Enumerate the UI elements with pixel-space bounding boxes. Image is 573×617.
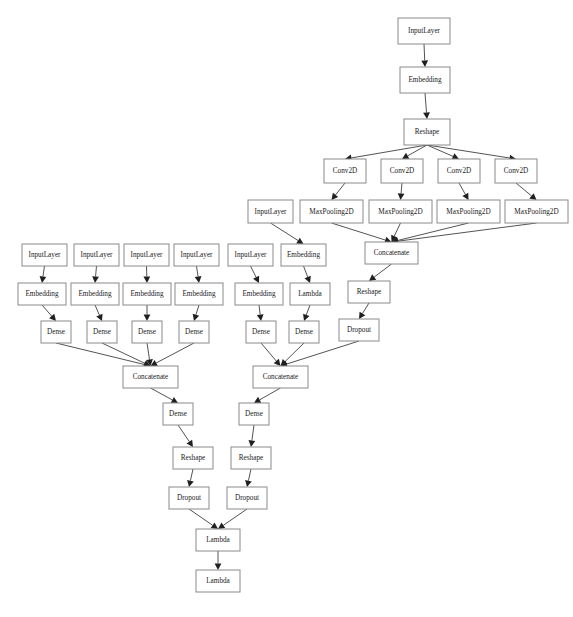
graph-node-dense[interactable]: Dense [239, 403, 269, 425]
graph-node-dense[interactable]: Dense [289, 321, 319, 343]
graph-node-dropout[interactable]: Dropout [169, 487, 209, 509]
graph-node-maxpooling2d[interactable]: MaxPooling2D [505, 200, 568, 223]
graph-edge [56, 343, 151, 368]
node-label: MaxPooling2D [378, 208, 422, 216]
node-label: Embedding [287, 251, 321, 259]
graph-node-lambda[interactable]: Lambda [196, 529, 240, 551]
node-label: Embedding [242, 290, 276, 298]
graph-node-concatenate[interactable]: Concatenate [123, 366, 178, 388]
edge-line [95, 305, 99, 315]
arrowhead-icon [92, 276, 99, 283]
edge-line [248, 469, 251, 481]
graph-edge [421, 44, 428, 67]
graph-node-conv2d[interactable]: Conv2D [324, 159, 366, 183]
graph-edge [332, 183, 346, 200]
edge-line [401, 183, 402, 194]
node-label: Lambda [206, 536, 230, 544]
graph-edge [423, 93, 430, 119]
node-label: Embedding [130, 290, 164, 298]
graph-edge [195, 266, 202, 283]
edge-line [306, 305, 310, 315]
graph-node-dense[interactable]: Dense [132, 321, 162, 343]
graph-node-embedding[interactable]: Embedding [18, 283, 66, 305]
edge-line [261, 343, 276, 361]
edge-line [336, 183, 345, 195]
arrowhead-icon [398, 193, 405, 200]
edge-line [197, 266, 199, 277]
node-label: InputLayer [29, 251, 62, 259]
graph-node-maxpooling2d[interactable]: MaxPooling2D [369, 200, 432, 223]
graph-node-dense[interactable]: Dense [87, 321, 117, 343]
node-label: Conv2D [504, 167, 528, 175]
graph-edge [189, 509, 218, 529]
graph-node-inputlayer[interactable]: InputLayer [398, 18, 450, 44]
node-label: Dropout [235, 494, 259, 502]
graph-node-embedding[interactable]: Embedding [71, 283, 119, 305]
graph-node-embedding[interactable]: Embedding [123, 283, 171, 305]
arrowhead-icon [215, 564, 222, 571]
edge-line [398, 223, 469, 240]
graph-node-reshape[interactable]: Reshape [231, 447, 271, 469]
graph-node-conv2d[interactable]: Conv2D [495, 159, 537, 183]
graph-edge [143, 266, 150, 283]
node-label: Conv2D [447, 167, 471, 175]
graph-node-inputlayer[interactable]: InputLayer [74, 244, 119, 266]
graph-edge [249, 425, 256, 447]
graph-edge [254, 388, 281, 403]
graph-node-inputlayer[interactable]: InputLayer [174, 244, 219, 266]
graph-edge [193, 305, 199, 321]
edge-line [459, 183, 465, 194]
edge-line [398, 223, 537, 241]
edge-line [394, 223, 400, 236]
graph-node-embedding[interactable]: Embedding [400, 67, 450, 93]
graph-node-embedding[interactable]: Embedding [175, 283, 223, 305]
graph-node-reshape[interactable]: Reshape [348, 281, 390, 303]
graph-node-dropout[interactable]: Dropout [227, 487, 267, 509]
node-label: Embedding [182, 290, 216, 298]
graph-node-embedding[interactable]: Embedding [235, 283, 283, 305]
node-label: InputLayer [408, 27, 441, 35]
graph-node-reshape[interactable]: Reshape [404, 119, 450, 145]
node-label: MaxPooling2D [446, 208, 490, 216]
graph-edge [218, 509, 247, 529]
graph-node-maxpooling2d[interactable]: MaxPooling2D [300, 200, 363, 223]
graph-edge [187, 469, 194, 487]
arrowhead-icon [529, 193, 536, 200]
graph-node-dense[interactable]: Dense [246, 321, 276, 343]
graph-node-inputlayer[interactable]: InputLayer [124, 244, 169, 266]
graph-edge [151, 388, 179, 403]
edge-line [223, 509, 247, 525]
graph-edge [144, 305, 151, 321]
graph-node-maxpooling2d[interactable]: MaxPooling2D [437, 200, 500, 223]
graph-node-lambda[interactable]: Lambda [196, 570, 240, 592]
node-label: InputLayer [235, 251, 268, 259]
model-architecture-diagram: InputLayerEmbeddingReshapeConv2DConv2DCo… [0, 0, 573, 617]
graph-node-dense[interactable]: Dense [179, 321, 209, 343]
edge-line [102, 343, 145, 363]
graph-node-conv2d[interactable]: Conv2D [381, 159, 423, 183]
graph-node-dense[interactable]: Dense [41, 321, 71, 343]
graph-node-inputlayer[interactable]: InputLayer [228, 244, 273, 266]
arrowhead-icon [195, 276, 202, 283]
graph-edge [303, 305, 310, 321]
graph-node-reshape[interactable]: Reshape [173, 447, 213, 469]
graph-node-dense[interactable]: Dense [163, 403, 193, 425]
graph-node-lambda[interactable]: Lambda [290, 283, 330, 305]
graph-node-inputlayer[interactable]: InputLayer [248, 200, 293, 223]
edge-line [271, 223, 299, 241]
graph-node-dropout[interactable]: Dropout [339, 319, 379, 341]
arrowhead-icon [187, 440, 193, 447]
edge-line [178, 425, 189, 442]
graph-node-inputlayer[interactable]: InputLayer [22, 244, 67, 266]
graph-node-concatenate[interactable]: Concatenate [253, 366, 308, 388]
graph-node-conv2d[interactable]: Conv2D [438, 159, 480, 183]
arrowhead-icon [144, 315, 151, 322]
edge-line [42, 305, 52, 316]
node-label: Concatenate [263, 373, 299, 381]
graph-node-concatenate[interactable]: Concatenate [365, 242, 418, 264]
edge-line [427, 145, 510, 158]
edge-line [190, 469, 193, 481]
node-label: InputLayer [131, 251, 164, 259]
graph-node-embedding[interactable]: Embedding [281, 244, 326, 266]
graph-edge [95, 305, 103, 321]
